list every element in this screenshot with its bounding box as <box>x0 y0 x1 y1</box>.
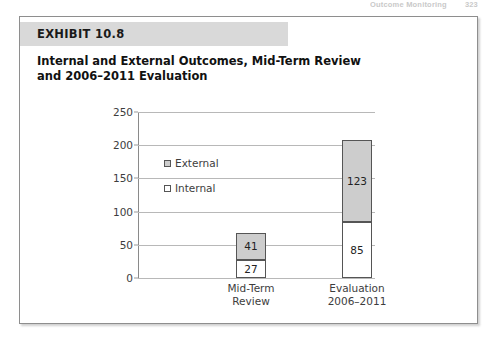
exhibit-frame: EXHIBIT 10.8 Internal and External Outco… <box>19 16 478 324</box>
stacked-bar-chart: 050100150200250 274185123 Mid-TermReview… <box>20 17 479 325</box>
legend-item-external: External <box>164 157 219 169</box>
bar-segment-external[interactable]: 41 <box>236 233 266 260</box>
running-head-title: Outcome Monitoring <box>370 0 447 9</box>
legend-swatch-external-icon <box>164 160 171 167</box>
y-axis-tick-label: 250 <box>113 106 133 118</box>
y-axis-tick-mark <box>134 112 138 113</box>
y-axis-tick-mark <box>134 244 138 245</box>
running-head: Outcome Monitoring 323 <box>370 0 478 12</box>
legend-label-external: External <box>175 157 219 169</box>
x-axis-category-label-line: 2006–2011 <box>307 295 407 308</box>
plot-area: 050100150200250 274185123 Mid-TermReview… <box>138 112 375 278</box>
y-axis-tick-mark <box>134 178 138 179</box>
x-axis-category-label: Mid-TermReview <box>201 282 301 308</box>
running-head-page-number: 323 <box>465 0 478 9</box>
legend-swatch-internal-icon <box>164 185 171 192</box>
bar-group[interactable]: 85123 <box>342 112 372 278</box>
y-axis-tick-label: 150 <box>113 172 133 184</box>
bar-segment-internal[interactable]: 27 <box>236 260 266 278</box>
y-axis-tick-label: 50 <box>120 239 133 251</box>
x-axis-category-label: Evaluation2006–2011 <box>307 282 407 308</box>
legend-label-internal: Internal <box>175 182 215 194</box>
bar-group[interactable]: 2741 <box>236 112 266 278</box>
y-axis-tick-label: 200 <box>113 139 133 151</box>
x-axis-category-label-line: Evaluation <box>307 282 407 295</box>
legend-item-internal: Internal <box>164 182 219 194</box>
y-axis-line <box>138 112 139 278</box>
y-axis-tick-mark <box>134 145 138 146</box>
y-axis-tick-mark <box>134 211 138 212</box>
y-axis-tick-label: 100 <box>113 206 133 218</box>
bar-segment-external[interactable]: 123 <box>342 140 372 222</box>
x-axis-category-label-line: Review <box>201 295 301 308</box>
y-axis-tick-mark <box>134 278 138 279</box>
gridline <box>138 278 375 279</box>
chart-legend: External Internal <box>164 157 219 194</box>
y-axis-tick-label: 0 <box>126 272 133 284</box>
bar-segment-internal[interactable]: 85 <box>342 222 372 278</box>
x-axis-category-label-line: Mid-Term <box>201 282 301 295</box>
